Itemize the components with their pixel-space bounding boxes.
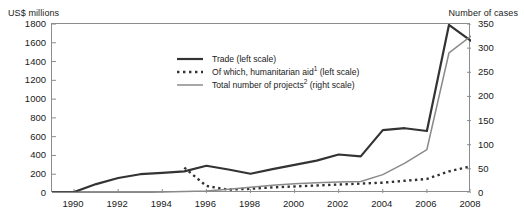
x-axis-tick: 1990 [62, 198, 83, 209]
left-axis-tick: 1600 [6, 36, 46, 47]
right-axis-title: Number of cases [448, 8, 518, 18]
right-axis-tick: 250 [478, 66, 518, 77]
x-axis-tick: 2006 [415, 198, 436, 209]
right-axis-tick: 200 [478, 90, 518, 101]
left-axis-tick: 600 [6, 130, 46, 141]
dotted-dark-line-swatch [177, 67, 203, 77]
left-axis-tick: 1400 [6, 55, 46, 66]
x-axis-tick: 1994 [151, 198, 172, 209]
footnote-marker: 1 [314, 65, 318, 72]
left-axis-tick: 400 [6, 149, 46, 160]
right-axis-tick: 100 [478, 138, 518, 149]
x-axis-tick: 1992 [107, 198, 128, 209]
plot-lines [52, 24, 471, 193]
left-axis-title: US$ millions [8, 8, 59, 18]
chart-legend: Trade (left scale)Of which, humanitarian… [177, 52, 359, 91]
left-axis-tick: 800 [6, 111, 46, 122]
left-axis-tick: 1200 [6, 74, 46, 85]
x-axis-tick: 2002 [327, 198, 348, 209]
x-axis-tick: 2004 [371, 198, 392, 209]
chart-figure: US$ millions Number of cases 02004006008… [0, 0, 524, 217]
x-axis-tick: 1998 [239, 198, 260, 209]
right-axis-tick: 150 [478, 114, 518, 125]
solid-dark-line-swatch [177, 54, 203, 64]
left-axis-tick: 200 [6, 168, 46, 179]
left-axis-tick: 1000 [6, 93, 46, 104]
left-axis-tick: 0 [6, 187, 46, 198]
solid-gray-line-swatch [177, 80, 203, 90]
legend-label: Of which, humanitarian aid1 (left scale) [212, 67, 359, 77]
x-axis-tick: 2008 [459, 198, 480, 209]
legend-label: Total number of projects2 (right scale) [212, 80, 355, 90]
right-axis-tick: 300 [478, 42, 518, 53]
legend-item[interactable]: Total number of projects2 (right scale) [177, 78, 359, 91]
x-axis-tick: 2000 [283, 198, 304, 209]
right-axis-tick: 50 [478, 162, 518, 173]
legend-label: Trade (left scale) [212, 54, 276, 64]
legend-item[interactable]: Trade (left scale) [177, 52, 359, 65]
footnote-marker: 2 [304, 78, 308, 85]
legend-item[interactable]: Of which, humanitarian aid1 (left scale) [177, 65, 359, 78]
x-axis-tick: 1996 [195, 198, 216, 209]
plot-area [51, 23, 470, 192]
right-axis-tick: 0 [478, 187, 518, 198]
right-axis-tick: 350 [478, 18, 518, 29]
left-axis-tick: 1800 [6, 18, 46, 29]
